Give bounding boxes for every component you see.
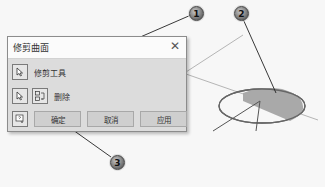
swap-icon bbox=[35, 91, 45, 101]
close-icon[interactable]: ✕ bbox=[170, 39, 180, 53]
delete-label: 删除 bbox=[54, 91, 70, 102]
callout-3: 3 bbox=[110, 155, 125, 170]
pointer-select-icon bbox=[15, 91, 25, 101]
swap-selection-button[interactable] bbox=[32, 88, 48, 104]
leader-line-2 bbox=[243, 19, 276, 93]
dialog-title: 修剪曲面 bbox=[13, 41, 49, 54]
trimmed-region bbox=[243, 88, 303, 121]
help-icon bbox=[15, 114, 25, 124]
apply-button[interactable]: 应用 bbox=[140, 111, 187, 127]
pointer-select-icon bbox=[15, 67, 25, 77]
trim-surface-dialog: 修剪曲面 ✕ 修剪工具 删除 bbox=[7, 36, 187, 132]
action-row: 确定 取消 应用 bbox=[12, 111, 193, 127]
delete-row: 删除 bbox=[12, 88, 70, 104]
trim-tool-row: 修剪工具 bbox=[12, 64, 66, 80]
trim-tool-label: 修剪工具 bbox=[34, 67, 66, 78]
dialog-titlebar: 修剪曲面 ✕ bbox=[8, 37, 186, 59]
delete-select-button[interactable] bbox=[12, 88, 28, 104]
trim-tool-select-button[interactable] bbox=[12, 64, 28, 80]
direction-line bbox=[213, 101, 260, 131]
help-button[interactable] bbox=[12, 111, 28, 127]
construction-line bbox=[186, 35, 243, 72]
callout-1: 1 bbox=[189, 6, 204, 21]
ok-button[interactable]: 确定 bbox=[34, 111, 81, 127]
callout-2: 2 bbox=[234, 6, 249, 21]
cancel-button[interactable]: 取消 bbox=[87, 111, 134, 127]
